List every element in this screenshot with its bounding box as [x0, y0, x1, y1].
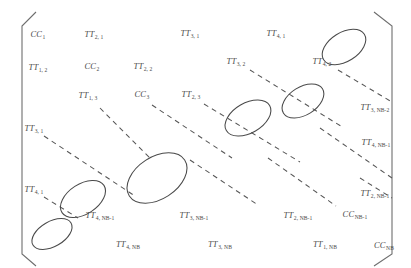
- matrix-entry-tt-3-nb-1: TT3, NB-1: [180, 211, 209, 221]
- entry-base: CC: [374, 240, 386, 250]
- entry-base: TT: [116, 239, 126, 249]
- entry-subscript: 2: [96, 65, 99, 71]
- entry-subscript: 3, 2: [236, 60, 245, 66]
- entry-subscript: 2, NB-1: [370, 192, 389, 198]
- matrix-entry-tt-1-2: TT1, 2: [28, 63, 47, 73]
- matrix-entry-cc-1: CC1: [30, 30, 45, 40]
- entry-subscript: NB: [386, 244, 394, 250]
- entry-subscript: 2, 3: [191, 93, 200, 99]
- entry-base: TT: [24, 184, 34, 194]
- entry-base: TT: [313, 239, 323, 249]
- ellipsis-diagonal-9: [268, 158, 336, 206]
- entry-subscript: 4, NB-1: [95, 214, 114, 220]
- matrix-bracket-left: [22, 12, 36, 266]
- matrix-entry-tt-3-nb-2: TT3, NB-2: [361, 103, 390, 113]
- matrix-figure: CC1TT2, 1TT3, 1TT4, 1TT1, 2CC2TT2, 2TT3,…: [0, 0, 411, 268]
- matrix-entry-cc-nb-1: CCNB-1: [343, 210, 368, 220]
- matrix-entry-tt-2-2: TT2, 2: [133, 62, 152, 72]
- entry-base: TT: [180, 28, 190, 38]
- entry-subscript: 3: [146, 93, 149, 99]
- ellipsis-diagonal-6: [44, 136, 135, 196]
- ellipsis-diagonal-10: [320, 128, 392, 178]
- entry-base: CC: [84, 61, 96, 71]
- matrix-entry-tt-4-nb-1: TT4, NB-1: [86, 211, 115, 221]
- matrix-entry-tt-4-1: TT4, 1: [24, 185, 43, 195]
- entry-subscript: 3, NB: [218, 243, 232, 249]
- entry-subscript: 1, NB: [323, 243, 337, 249]
- entry-subscript: 4, NB: [126, 243, 140, 249]
- cluster-ellipse-center-right: [219, 93, 277, 144]
- entry-base: CC: [134, 89, 146, 99]
- entry-base: TT: [208, 239, 218, 249]
- matrix-entry-tt-4-nb: TT4, NB: [116, 240, 140, 250]
- matrix-entry-tt-4-1: TT4, 1: [266, 29, 285, 39]
- entry-base: TT: [28, 62, 38, 72]
- entry-subscript: 2, 2: [143, 65, 152, 71]
- entry-base: TT: [361, 102, 371, 112]
- ellipsis-diagonal-4: [250, 70, 344, 128]
- entry-base: TT: [180, 210, 190, 220]
- matrix-entry-tt-4-nb-1: TT4, NB-1: [362, 138, 391, 148]
- ellipsis-diagonal-1: [100, 108, 152, 160]
- matrix-entry-tt-2-3: TT2, 3: [181, 90, 200, 100]
- entry-subscript: 4, NB-1: [371, 141, 390, 147]
- entry-base: TT: [78, 90, 88, 100]
- entry-base: CC: [343, 209, 355, 219]
- entry-subscript: 4, 2: [322, 60, 331, 66]
- entry-subscript: 3, NB-1: [189, 214, 208, 220]
- matrix-entry-tt-3-2: TT3, 2: [226, 57, 245, 67]
- entry-base: TT: [362, 137, 372, 147]
- entry-subscript: 1, 2: [38, 66, 47, 72]
- matrix-entry-cc-nb: CCNB: [374, 241, 394, 251]
- entry-subscript: 1, 3: [88, 94, 97, 100]
- entry-base: TT: [24, 123, 34, 133]
- matrix-entry-tt-2-nb-1: TT2, NB-1: [284, 211, 313, 221]
- matrix-entry-tt-3-1: TT3, 1: [180, 29, 199, 39]
- entry-base: TT: [86, 210, 96, 220]
- entry-base: TT: [361, 188, 371, 198]
- entry-base: TT: [266, 28, 276, 38]
- entry-subscript: 3, 1: [190, 32, 199, 38]
- matrix-entry-tt-2-nb-1: TT2, NB-1: [361, 189, 390, 199]
- entry-subscript: 4, 1: [34, 188, 43, 194]
- entry-base: TT: [133, 61, 143, 71]
- entry-base: TT: [84, 29, 94, 39]
- cluster-ellipse-bottom-left: [27, 212, 78, 256]
- matrix-entry-tt-4-2: TT4, 2: [312, 57, 331, 67]
- matrix-entry-tt-2-1: TT2, 1: [84, 30, 103, 40]
- matrix-graphics-layer: [0, 0, 411, 268]
- entry-base: CC: [30, 29, 42, 39]
- entry-base: TT: [284, 210, 294, 220]
- entry-base: TT: [181, 89, 191, 99]
- matrix-entry-tt-1-nb: TT1, NB: [313, 240, 337, 250]
- entry-subscript: 4, 1: [276, 32, 285, 38]
- cluster-ellipse-center-large: [118, 142, 196, 213]
- entry-base: TT: [312, 56, 322, 66]
- entry-subscript: 3, NB-2: [370, 106, 389, 112]
- ellipsis-diagonal-2: [152, 105, 232, 158]
- entry-subscript: 3, 1: [34, 127, 43, 133]
- entry-subscript: 2, 1: [94, 33, 103, 39]
- entry-subscript: NB-1: [354, 213, 367, 219]
- entry-subscript: 1: [42, 33, 45, 39]
- matrix-entry-tt-3-nb: TT3, NB: [208, 240, 232, 250]
- cluster-ellipse-upper-mid: [276, 77, 330, 125]
- matrix-entry-cc-2: CC2: [84, 62, 99, 72]
- ellipsis-diagonal-5: [338, 70, 392, 102]
- ellipsis-diagonal-8: [190, 160, 258, 205]
- entry-subscript: 2, NB-1: [293, 214, 312, 220]
- matrix-entry-tt-1-3: TT1, 3: [78, 91, 97, 101]
- matrix-entry-tt-3-1: TT3, 1: [24, 124, 43, 134]
- ellipsis-diagonal-7: [44, 197, 78, 218]
- matrix-entry-cc-3: CC3: [134, 90, 149, 100]
- entry-base: TT: [226, 56, 236, 66]
